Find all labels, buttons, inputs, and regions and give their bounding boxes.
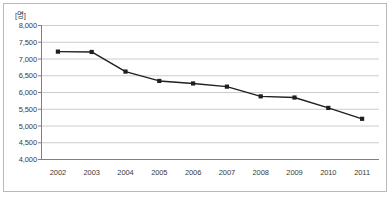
x-tick-label: 2002: [50, 168, 66, 177]
x-tick-label: 2008: [253, 168, 269, 177]
chart-plot-container: [명] 8,0007,5007,0006,5006,0005,5005,0004…: [4, 4, 386, 191]
x-axis-tick-labels: 2002200320042005200620072008200920102011: [4, 4, 386, 191]
chart-frame: [명] 8,0007,5007,0006,5006,0005,5005,0004…: [3, 3, 387, 192]
x-tick-label: 2006: [185, 168, 201, 177]
x-tick-label: 2010: [320, 168, 336, 177]
x-tick-label: 2003: [84, 168, 100, 177]
x-tick-label: 2005: [151, 168, 167, 177]
x-tick-label: 2004: [117, 168, 133, 177]
x-tick-label: 2007: [219, 168, 235, 177]
x-tick-label: 2011: [354, 168, 370, 177]
x-tick-label: 2009: [286, 168, 302, 177]
